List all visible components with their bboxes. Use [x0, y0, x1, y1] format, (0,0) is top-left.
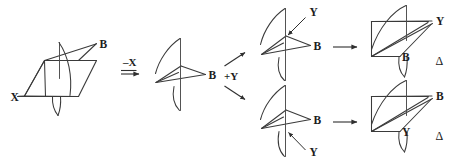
structure-product-bottom: [372, 81, 433, 153]
label-delta-bottom: Δ: [436, 129, 444, 143]
label-b-product-bottom: B: [436, 90, 444, 102]
structure-product-top: [372, 6, 433, 78]
reaction-arrow-loss-of-x: [121, 71, 139, 75]
label-y-top-attack: Y: [310, 6, 319, 18]
attack-arrow-y-top: [288, 18, 306, 36]
label-b-product-top: B: [402, 51, 410, 63]
reaction-scheme-figure: X B –X B +Y: [0, 0, 464, 161]
label-y-product-top: Y: [436, 15, 445, 27]
structure-reactant: [18, 43, 97, 116]
structure-bottom-attack: [261, 86, 311, 157]
label-y-bottom-attack: Y: [310, 146, 319, 158]
attack-arrow-y-bottom: [289, 133, 306, 151]
structure-carbocation: [156, 39, 206, 111]
label-b-carbocation: B: [209, 69, 217, 81]
reaction-scheme-canvas: X B –X B +Y: [0, 0, 464, 161]
label-x-reactant: X: [11, 91, 20, 103]
label-minus-x: –X: [122, 56, 137, 68]
label-b-top-attack: B: [314, 40, 322, 52]
label-b-bottom-attack: B: [314, 114, 322, 126]
label-plus-y: +Y: [224, 70, 238, 82]
label-b-reactant: B: [100, 38, 108, 50]
label-y-product-bottom: Y: [402, 126, 411, 138]
label-delta-top: Δ: [436, 54, 444, 68]
